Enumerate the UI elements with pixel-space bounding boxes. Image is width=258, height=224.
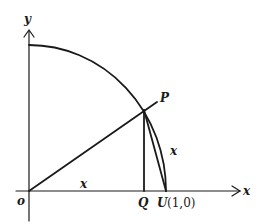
y-axis-label: y xyxy=(23,12,32,26)
unit-circle-diagram: y x o P x x Q U (1,0) xyxy=(0,0,258,224)
arc-pu-label: x xyxy=(169,144,178,158)
segment-op-label: x xyxy=(79,177,88,191)
point-q-label: Q xyxy=(138,196,149,210)
segment-op xyxy=(29,102,157,191)
x-axis-label: x xyxy=(242,184,251,198)
chord-pu xyxy=(144,110,166,191)
point-u-coords-label: (1,0) xyxy=(167,196,195,210)
origin-label: o xyxy=(17,194,25,208)
point-p-label: P xyxy=(159,91,170,105)
